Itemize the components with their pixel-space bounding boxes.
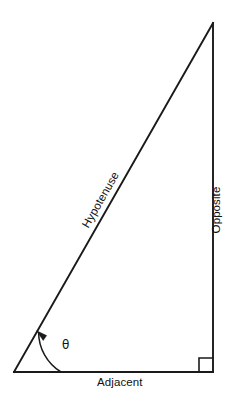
- triangle-diagram: Hypotenuse Opposite Adjacent θ: [0, 0, 237, 405]
- right-angle-marker: [199, 358, 213, 372]
- triangle-svg: [0, 0, 237, 405]
- opposite-label: Opposite: [211, 187, 223, 234]
- hypotenuse-line: [14, 23, 213, 372]
- adjacent-label: Adjacent: [97, 377, 143, 389]
- angle-theta-label: θ: [62, 339, 69, 351]
